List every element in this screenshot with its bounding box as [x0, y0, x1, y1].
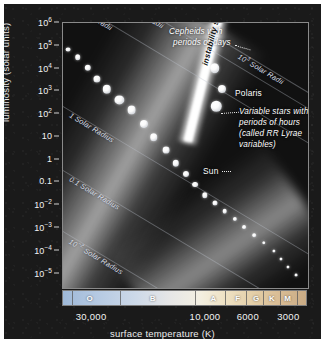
hr-diagram-figure: luminosity (solar units) 106105104103102…: [0, 0, 325, 347]
radius-line-label: 10 Solar Radii: [68, 23, 114, 33]
spectral-class-O: O: [86, 294, 93, 303]
spectral-class-bar: OBAFGKM: [62, 290, 307, 306]
annotation-rrlyrae-line2: periods of hours: [239, 118, 300, 129]
star-point: [127, 106, 136, 115]
y-tick-label: 10: [42, 131, 52, 141]
star-point: [192, 182, 198, 188]
spectral-class-divider: [246, 291, 247, 305]
star-point: [150, 133, 158, 141]
y-tick-label: 105: [38, 39, 52, 51]
star-point: [252, 233, 256, 237]
spectral-class-divider: [263, 291, 264, 305]
annotation-rrlyrae-line1: Variable stars with: [239, 107, 308, 118]
x-tick-label: 6000: [237, 311, 259, 322]
star-point: [210, 63, 220, 73]
spectral-class-divider: [225, 291, 226, 305]
star-point: [294, 273, 297, 276]
y-tick-label: 106: [38, 16, 52, 28]
star-point: [218, 85, 226, 93]
spectral-class-divider: [280, 291, 281, 305]
y-tick-label: 10−4: [34, 244, 52, 256]
spectral-class-K: K: [269, 294, 275, 303]
plot-area: 10 Solar Radii103 Solar Radii1 Solar Rad…: [62, 22, 309, 289]
y-tick-mark: [54, 158, 59, 159]
annotation-rrlyrae-line3: (called RR Lyrae: [239, 129, 302, 140]
y-axis-label: luminosity (solar units): [4, 23, 11, 122]
star-point: [162, 147, 169, 154]
annotation-rrlyrae-line4: variables): [239, 140, 276, 151]
y-tick-mark: [54, 135, 59, 136]
y-tick-label: 1: [47, 154, 52, 164]
spectral-class-M: M: [284, 294, 291, 303]
annotation-cepheids-line2: periods of days: [173, 38, 231, 49]
y-tick-mark: [54, 227, 59, 228]
star-point: [242, 225, 246, 229]
star-point: [65, 47, 70, 52]
y-tick-label: 10−3: [34, 221, 52, 233]
x-tick-label: 10,000: [190, 311, 221, 322]
star-point: [287, 265, 290, 268]
annotation-sun: Sun: [203, 166, 219, 176]
y-tick-label: 103: [38, 84, 52, 96]
spectral-class-divider: [195, 291, 196, 305]
y-tick-mark: [54, 67, 59, 68]
spectral-class-F: F: [235, 294, 240, 303]
y-tick-mark: [54, 204, 59, 205]
spectral-class-divider: [72, 291, 73, 305]
x-tick-label: 3000: [277, 311, 299, 322]
leader-line-sun: [222, 171, 231, 172]
star-point: [183, 171, 189, 177]
y-tick-mark: [54, 272, 59, 273]
spectral-class-divider: [297, 291, 298, 305]
star-point: [212, 201, 217, 206]
spectral-class-A: A: [211, 294, 217, 303]
y-tick-label: 10−5: [34, 267, 52, 279]
y-tick-mark: [54, 22, 59, 23]
annotation-polaris: Polaris: [235, 88, 262, 98]
star-point: [280, 257, 283, 260]
y-tick-mark: [54, 113, 59, 114]
y-tick-label: 0.1: [39, 176, 52, 186]
star-point: [222, 209, 227, 214]
y-tick-mark: [54, 44, 59, 45]
y-tick-mark: [54, 249, 59, 250]
y-tick-mark: [54, 181, 59, 182]
spectral-class-divider: [120, 291, 121, 305]
figure-panel: luminosity (solar units) 106105104103102…: [4, 4, 321, 339]
star-point: [75, 55, 81, 61]
spectral-class-B: B: [150, 294, 156, 303]
y-tick-label: 10−2: [34, 198, 52, 210]
y-tick-label: 104: [38, 62, 52, 74]
spectral-class-G: G: [253, 294, 260, 303]
y-tick-mark: [54, 90, 59, 91]
y-tick-label: 102: [38, 107, 52, 119]
x-tick-label: 30,000: [76, 311, 107, 322]
x-axis-label: surface temperature (K): [4, 328, 321, 339]
star-point: [140, 120, 148, 128]
